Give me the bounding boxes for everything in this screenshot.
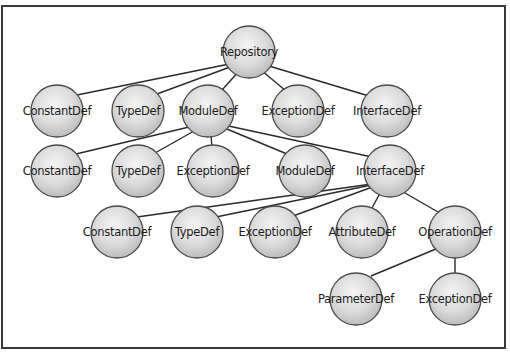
node-label-repository: Repository bbox=[220, 45, 279, 59]
node-label-r2-constantdef: ConstantDef bbox=[23, 164, 93, 178]
node-label-r3-attributedef: AttributeDef bbox=[328, 225, 396, 239]
node-label-r4-parameterdef: ParameterDef bbox=[318, 292, 395, 306]
node-label-r1-exceptiondef: ExceptionDef bbox=[262, 104, 336, 118]
node-label-r3-typedef: TypeDef bbox=[174, 225, 221, 239]
repository-hierarchy-diagram: RepositoryConstantDefTypeDefModuleDefExc… bbox=[0, 0, 510, 353]
node-label-r2-exceptiondef: ExceptionDef bbox=[177, 164, 251, 178]
node-label-r1-constantdef: ConstantDef bbox=[23, 104, 93, 118]
node-label-r1-interfacedef: InterfaceDef bbox=[353, 104, 422, 118]
node-label-r3-exceptiondef: ExceptionDef bbox=[239, 225, 313, 239]
node-label-r4-exceptiondef: ExceptionDef bbox=[419, 292, 493, 306]
node-label-r2-interfacedef: InterfaceDef bbox=[356, 164, 425, 178]
node-label-r1-moduledef: ModuleDef bbox=[178, 104, 238, 118]
node-label-r2-moduledef: ModuleDef bbox=[275, 164, 335, 178]
node-label-r3-operationdef: OperationDef bbox=[418, 225, 493, 239]
node-label-r3-constantdef: ConstantDef bbox=[83, 225, 153, 239]
node-label-r2-typedef: TypeDef bbox=[115, 164, 162, 178]
labels-layer: RepositoryConstantDefTypeDefModuleDefExc… bbox=[23, 45, 493, 306]
node-label-r1-typedef: TypeDef bbox=[115, 104, 162, 118]
